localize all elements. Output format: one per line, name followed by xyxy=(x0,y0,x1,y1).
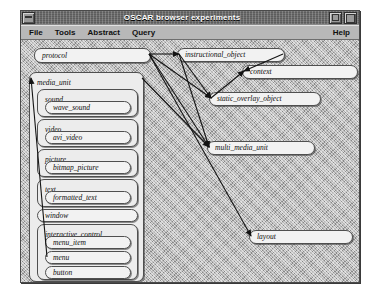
graph-node-label: context xyxy=(250,68,272,76)
graph-node-window[interactable]: window xyxy=(37,209,138,222)
graph-edge xyxy=(142,78,209,147)
screenshot-root: OSCAR browser experiments File Tools Abs… xyxy=(0,0,376,294)
graph-node-label: bitmap_picture xyxy=(53,164,99,172)
menu-bar-right: Help xyxy=(327,26,356,39)
graph-node-context[interactable]: context xyxy=(242,65,358,79)
graph-node-label: instructional_object xyxy=(185,51,245,59)
graph-node-menu[interactable]: menu xyxy=(45,251,131,264)
window-menu-icon[interactable] xyxy=(22,12,35,24)
graph-canvas[interactable]: protocolmedia_unitsoundwave_soundvideoav… xyxy=(21,40,359,282)
graph-node-wave_sound[interactable]: wave_sound xyxy=(45,101,131,114)
graph-node-label: static_overlay_object xyxy=(217,95,282,103)
window-controls xyxy=(328,12,358,24)
minimize-icon[interactable] xyxy=(329,12,342,24)
graph-node-static_overlay_object[interactable]: static_overlay_object xyxy=(209,92,321,106)
graph-node-avi_video[interactable]: avi_video xyxy=(45,131,131,144)
graph-node-label: menu_item xyxy=(53,239,86,247)
graph-node-button[interactable]: button xyxy=(45,266,131,279)
title-bar: OSCAR browser experiments xyxy=(21,11,359,25)
menu-item-file[interactable]: File xyxy=(23,26,49,39)
graph-edge xyxy=(149,54,209,147)
graph-node-label: menu xyxy=(53,254,69,262)
menu-item-query[interactable]: Query xyxy=(126,26,161,39)
graph-node-label: multi_media_unit xyxy=(215,144,268,152)
graph-node-label: protocol xyxy=(42,52,67,60)
graph-node-label: avi_video xyxy=(53,134,82,142)
graph-node-label: window xyxy=(45,212,68,220)
graph-node-label: wave_sound xyxy=(53,104,90,112)
menu-bar-left: File Tools Abstract Query xyxy=(23,26,161,39)
application-window: OSCAR browser experiments File Tools Abs… xyxy=(20,10,360,283)
menu-item-tools[interactable]: Tools xyxy=(49,26,82,39)
maximize-icon[interactable] xyxy=(344,12,357,24)
graph-node-formatted_text[interactable]: formatted_text xyxy=(45,191,131,204)
menu-bar: File Tools Abstract Query Help xyxy=(21,25,359,40)
graph-node-multi_media_unit[interactable]: multi_media_unit xyxy=(207,141,315,155)
graph-node-bitmap_picture[interactable]: bitmap_picture xyxy=(45,161,131,174)
graph-node-label: button xyxy=(53,269,72,277)
menu-item-help[interactable]: Help xyxy=(327,26,356,39)
menu-item-abstract[interactable]: Abstract xyxy=(82,26,126,39)
graph-node-instructional_object[interactable]: instructional_object xyxy=(177,48,285,62)
graph-edge xyxy=(179,54,209,147)
window-title: OSCAR browser experiments xyxy=(36,13,328,22)
graph-node-menu_item[interactable]: menu_item xyxy=(45,236,131,249)
graph-node-label: media_unit xyxy=(37,79,71,87)
graph-node-protocol[interactable]: protocol xyxy=(34,48,151,63)
graph-node-label: layout xyxy=(257,233,276,241)
graph-node-layout[interactable]: layout xyxy=(249,230,353,244)
graph-node-label: formatted_text xyxy=(53,194,97,202)
